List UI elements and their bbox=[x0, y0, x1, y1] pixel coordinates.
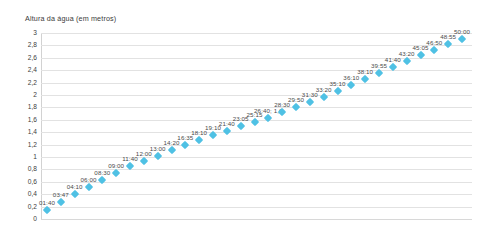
data-point-label: 08:30 bbox=[94, 169, 110, 176]
data-point bbox=[236, 122, 244, 130]
plot-area: 01:4003:4704:1006:0008:3009:0011:4012:00… bbox=[41, 33, 472, 219]
data-point bbox=[181, 141, 189, 149]
y-axis-tick-labels: 32,82,62,42,221,81,61,41,210,80,60,40,20 bbox=[0, 33, 37, 220]
data-point bbox=[70, 190, 78, 198]
data-point bbox=[306, 98, 314, 106]
y-axis-tick-label: 2,2 bbox=[3, 79, 37, 86]
y-axis-tick-label: 1,4 bbox=[3, 128, 37, 135]
x-axis-baseline bbox=[41, 219, 472, 220]
data-point bbox=[223, 127, 231, 135]
y-axis-tick-label: 2 bbox=[3, 91, 37, 98]
data-point bbox=[57, 197, 65, 205]
y-axis-tick-label: 1,8 bbox=[3, 103, 37, 110]
gridline bbox=[41, 132, 472, 133]
gridline bbox=[41, 194, 472, 195]
data-point-label: 01:40 bbox=[39, 199, 55, 206]
gridline bbox=[41, 207, 472, 208]
y-axis-tick-label: 0,6 bbox=[3, 178, 37, 185]
gridline bbox=[41, 70, 472, 71]
y-axis-tick-label: 1,6 bbox=[3, 116, 37, 123]
data-point-label: 35:10 bbox=[330, 80, 346, 87]
y-axis-tick-label: 1,2 bbox=[3, 141, 37, 148]
y-axis-tick-label: 2,8 bbox=[3, 41, 37, 48]
gridline bbox=[41, 182, 472, 183]
y-axis-tick-label: 1 bbox=[3, 153, 37, 160]
data-point bbox=[278, 108, 286, 116]
data-point-label: 06:00 bbox=[81, 176, 97, 183]
data-point bbox=[444, 40, 452, 48]
data-point-label: 41:40 bbox=[385, 56, 401, 63]
data-point-label: 04:10 bbox=[67, 183, 83, 190]
gridline bbox=[41, 95, 472, 96]
gridline bbox=[41, 157, 472, 158]
data-point bbox=[195, 135, 203, 143]
data-point-label: 36:10 bbox=[343, 74, 359, 81]
y-axis-tick-label: 0,4 bbox=[3, 190, 37, 197]
y-axis-tick-label: 2,6 bbox=[3, 54, 37, 61]
y-axis-tick-label: 3 bbox=[3, 29, 37, 36]
data-point-label: 03:47 bbox=[53, 191, 69, 198]
chart-container: Altura da água (em metros) 32,82,62,42,2… bbox=[0, 0, 484, 240]
data-point bbox=[84, 183, 92, 191]
y-axis-tick-label: 2,4 bbox=[3, 66, 37, 73]
data-point bbox=[458, 35, 466, 43]
y-axis-tick-label: 0 bbox=[3, 215, 37, 222]
y-axis-tick-label: 0,2 bbox=[3, 203, 37, 210]
data-point bbox=[319, 93, 327, 101]
data-point bbox=[250, 118, 258, 126]
gridline bbox=[41, 33, 472, 34]
data-point bbox=[167, 145, 175, 153]
y-axis-tick-label: 0,8 bbox=[3, 165, 37, 172]
data-point-label: 09:00 bbox=[108, 162, 124, 169]
gridline bbox=[41, 83, 472, 84]
gridline bbox=[41, 45, 472, 46]
data-point bbox=[264, 114, 272, 122]
data-point bbox=[98, 176, 106, 184]
data-point bbox=[292, 103, 300, 111]
data-point-label: 38:10 bbox=[357, 68, 373, 75]
data-point bbox=[430, 45, 438, 53]
data-point bbox=[153, 152, 161, 160]
chart-title: Altura da água (em metros) bbox=[25, 14, 116, 23]
gridline bbox=[41, 145, 472, 146]
data-point-label: 13:00 bbox=[150, 145, 166, 152]
data-point-label: 50:00 bbox=[454, 28, 470, 35]
